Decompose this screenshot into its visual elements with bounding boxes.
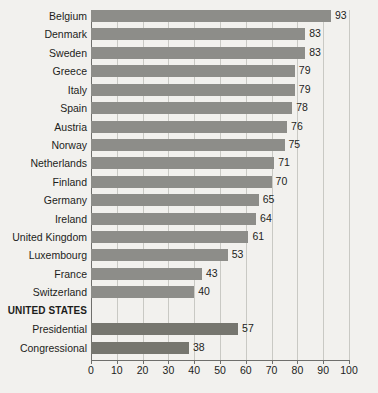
- bar: 43: [91, 268, 202, 280]
- bar-row: Austria76: [91, 121, 349, 139]
- bar: 65: [91, 194, 259, 206]
- bar: 71: [91, 157, 274, 169]
- category-label: Netherlands: [30, 157, 87, 169]
- bar-row: Switzerland40: [91, 286, 349, 304]
- bar-row: Sweden83: [91, 47, 349, 65]
- bar-row: Netherlands71: [91, 157, 349, 175]
- bar-row: Belgium93: [91, 10, 349, 28]
- bar: 57: [91, 323, 238, 335]
- bar-value-label: 38: [193, 341, 205, 354]
- x-tick-label-90: 90: [317, 364, 329, 377]
- bar: 53: [91, 249, 228, 261]
- category-label: Spain: [60, 102, 87, 114]
- bar-value-label: 71: [278, 156, 290, 169]
- x-tick-label-80: 80: [292, 364, 304, 377]
- category-label: Austria: [54, 121, 87, 133]
- bar-rows: Belgium93Denmark83Sweden83Greece79Italy7…: [91, 10, 349, 360]
- category-label: Finland: [53, 176, 87, 188]
- x-tick-label-70: 70: [266, 364, 278, 377]
- category-label: Luxembourg: [29, 249, 87, 261]
- category-label: UNITED STATES: [8, 305, 87, 317]
- category-label: Presidential: [32, 323, 87, 335]
- bar-row: Ireland64: [91, 213, 349, 231]
- bar-row: Greece79: [91, 65, 349, 83]
- bar: 83: [91, 28, 305, 40]
- bar: 78: [91, 102, 292, 114]
- gridline-100: [349, 10, 350, 360]
- bar-value-label: 83: [309, 27, 321, 40]
- bar-value-label: 79: [299, 83, 311, 96]
- category-label: Congressional: [20, 342, 87, 354]
- category-label: Greece: [53, 65, 87, 77]
- bar-value-label: 70: [276, 175, 288, 188]
- bar-row: Norway75: [91, 139, 349, 157]
- bar-value-label: 76: [291, 120, 303, 133]
- category-label: Ireland: [55, 213, 87, 225]
- bar: 93: [91, 10, 331, 22]
- bar: 83: [91, 47, 305, 59]
- bar-value-label: 83: [309, 46, 321, 59]
- bar-row: Congressional38: [91, 342, 349, 360]
- x-tick-label-20: 20: [137, 364, 149, 377]
- category-label: Belgium: [49, 10, 87, 22]
- bar-value-label: 40: [198, 285, 210, 298]
- bar-value-label: 79: [299, 64, 311, 77]
- bar: 64: [91, 213, 256, 225]
- bar-row: Germany65: [91, 194, 349, 212]
- voter-turnout-bar-chart: Belgium93Denmark83Sweden83Greece79Italy7…: [0, 0, 378, 393]
- category-label: United Kingdom: [12, 231, 87, 243]
- bar-value-label: 75: [289, 138, 301, 151]
- category-label: Norway: [51, 139, 87, 151]
- bar: 40: [91, 286, 194, 298]
- x-tick-label-30: 30: [163, 364, 175, 377]
- x-tick-label-100: 100: [340, 364, 358, 377]
- x-tick-label-50: 50: [214, 364, 226, 377]
- bar: 79: [91, 84, 295, 96]
- bar-row: Luxembourg53: [91, 249, 349, 267]
- bar-row: Spain78: [91, 102, 349, 120]
- x-tick-label-10: 10: [111, 364, 123, 377]
- bar-value-label: 43: [206, 267, 218, 280]
- group-header-row: UNITED STATES: [91, 305, 349, 323]
- bar-row: Denmark83: [91, 28, 349, 46]
- category-label: Sweden: [49, 47, 87, 59]
- bar: 76: [91, 121, 287, 133]
- category-label: Denmark: [44, 28, 87, 40]
- category-label: Italy: [68, 84, 87, 96]
- bar: 38: [91, 342, 189, 354]
- x-axis: 0102030405060708090100: [91, 360, 349, 380]
- bar-value-label: 65: [263, 193, 275, 206]
- x-tick-label-0: 0: [88, 364, 94, 377]
- bar-row: Italy79: [91, 84, 349, 102]
- category-label: France: [54, 268, 87, 280]
- bar-value-label: 57: [242, 322, 254, 335]
- bar-value-label: 53: [232, 248, 244, 261]
- bar-value-label: 78: [296, 101, 308, 114]
- category-label: Switzerland: [33, 286, 87, 298]
- bar-row: Presidential57: [91, 323, 349, 341]
- plot-area: Belgium93Denmark83Sweden83Greece79Italy7…: [91, 10, 349, 360]
- x-tick-label-60: 60: [240, 364, 252, 377]
- bar-row: France43: [91, 268, 349, 286]
- bar-value-label: 93: [335, 9, 347, 22]
- bar: 70: [91, 176, 272, 188]
- bar: 79: [91, 65, 295, 77]
- category-label: Germany: [44, 194, 87, 206]
- bar-value-label: 61: [252, 230, 264, 243]
- bar: 61: [91, 231, 248, 243]
- bar-row: United Kingdom61: [91, 231, 349, 249]
- bar-value-label: 64: [260, 212, 272, 225]
- x-tick-label-40: 40: [188, 364, 200, 377]
- bar-row: Finland70: [91, 176, 349, 194]
- bar: 75: [91, 139, 285, 151]
